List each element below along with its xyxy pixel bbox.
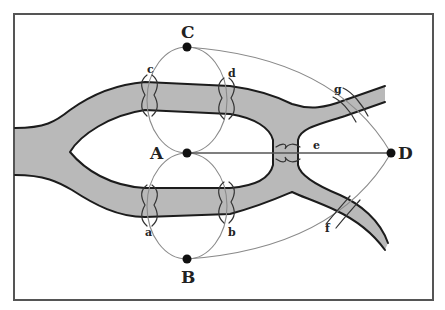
label-d: D (398, 143, 413, 163)
node-c (183, 43, 192, 52)
label-bridge-c: c (147, 63, 154, 76)
label-bridge-a: a (145, 226, 152, 239)
label-bridge-d: d (228, 67, 236, 80)
label-c: C (181, 22, 195, 42)
node-b (183, 255, 192, 264)
label-a: A (149, 143, 164, 163)
node-d (387, 149, 396, 158)
label-bridge-g: g (334, 83, 342, 96)
label-b: B (181, 267, 195, 287)
diagram-frame (14, 14, 433, 300)
label-bridge-e: e (313, 139, 320, 152)
node-a (183, 149, 192, 158)
label-bridge-b: b (228, 226, 236, 239)
seven-bridges-diagram: C A B D c d a b e g f (0, 0, 445, 310)
